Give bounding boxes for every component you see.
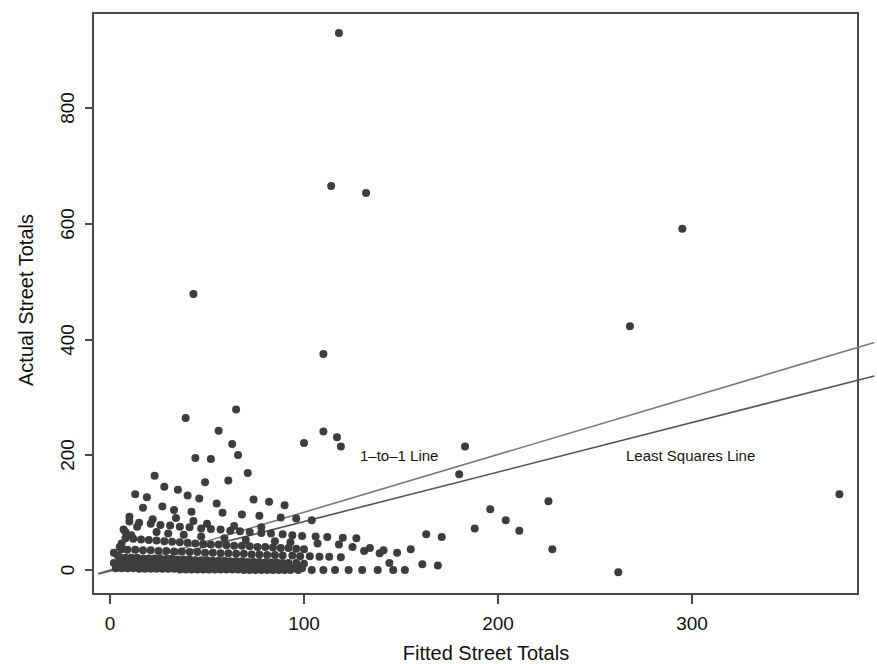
x-tick-label-300: 300 [676, 613, 708, 634]
data-point [110, 559, 118, 567]
data-point [358, 566, 366, 574]
data-point [174, 486, 182, 494]
data-point [222, 541, 230, 549]
data-point [401, 566, 409, 574]
data-point [207, 541, 215, 549]
data-point [279, 530, 287, 538]
data-point [228, 440, 236, 448]
data-point [137, 535, 145, 543]
data-point [149, 515, 157, 523]
data-point [230, 542, 238, 550]
data-point [374, 566, 382, 574]
data-point [314, 539, 322, 547]
data-point [393, 549, 401, 557]
data-point [162, 547, 170, 555]
y-tick-label-200: 200 [57, 439, 78, 471]
data-point [131, 546, 139, 554]
data-point [312, 533, 320, 541]
data-point [131, 490, 139, 498]
data-point [232, 550, 240, 558]
data-point [244, 469, 252, 477]
data-point [308, 566, 316, 574]
data-point [125, 513, 133, 521]
data-point [389, 566, 397, 574]
data-point [294, 566, 302, 574]
data-point [271, 551, 279, 559]
data-point [172, 514, 180, 522]
data-point [614, 568, 622, 576]
data-point [319, 427, 327, 435]
data-point [193, 548, 201, 556]
data-point [143, 493, 151, 501]
data-point [184, 539, 192, 547]
data-point [246, 528, 254, 536]
data-point [678, 225, 686, 233]
data-point [201, 549, 209, 557]
data-point [261, 543, 269, 551]
data-point [189, 290, 197, 298]
data-point [170, 548, 178, 556]
data-point [250, 496, 258, 504]
data-point [215, 427, 223, 435]
data-point [139, 504, 147, 512]
data-point [215, 541, 223, 549]
data-point [158, 502, 166, 510]
scatter-plot-figure: 0 200 400 600 800 0 100 200 300 Fitted S… [0, 0, 877, 664]
x-axis-title: Fitted Street Totals [403, 642, 569, 664]
data-point [422, 530, 430, 538]
data-point [224, 549, 232, 557]
data-point [333, 433, 341, 441]
data-point [139, 546, 147, 554]
data-point [418, 560, 426, 568]
data-point [306, 552, 314, 560]
data-point [337, 442, 345, 450]
data-point [292, 545, 300, 553]
y-tick-label-0: 0 [57, 565, 78, 576]
annotation-least-squares-line: Least Squares Line [626, 447, 755, 464]
data-point [234, 451, 242, 459]
data-point [153, 528, 161, 536]
data-point [360, 547, 368, 555]
data-point [253, 543, 261, 551]
data-point [335, 29, 343, 37]
data-point [118, 539, 126, 547]
data-point [339, 534, 347, 542]
data-point [220, 534, 228, 542]
data-point [548, 545, 556, 553]
data-point [438, 533, 446, 541]
data-point [319, 566, 327, 574]
data-point [176, 523, 184, 531]
data-point [114, 552, 122, 560]
data-point [331, 566, 339, 574]
y-tick-label-400: 400 [57, 324, 78, 356]
data-point [195, 494, 203, 502]
data-point [471, 524, 479, 532]
data-point [325, 553, 333, 561]
data-point [248, 550, 256, 558]
data-point [170, 506, 178, 514]
data-point [277, 513, 285, 521]
data-point [240, 550, 248, 558]
data-point [242, 536, 250, 544]
data-point [323, 533, 331, 541]
data-point [308, 516, 316, 524]
data-point [486, 505, 494, 513]
data-point [544, 497, 552, 505]
data-point [319, 350, 327, 358]
data-point [265, 498, 273, 506]
data-point [209, 549, 217, 557]
y-tick-label-800: 800 [57, 92, 78, 124]
data-point [238, 511, 246, 519]
data-point [217, 549, 225, 557]
data-point [255, 550, 263, 558]
data-point [122, 528, 130, 536]
data-point [176, 538, 184, 546]
data-point [191, 539, 199, 547]
data-point [461, 442, 469, 450]
data-point [160, 537, 168, 545]
data-point [184, 492, 192, 500]
data-point [219, 509, 227, 517]
data-point [263, 551, 271, 559]
x-tick-label-100: 100 [288, 613, 320, 634]
data-point [203, 520, 211, 528]
